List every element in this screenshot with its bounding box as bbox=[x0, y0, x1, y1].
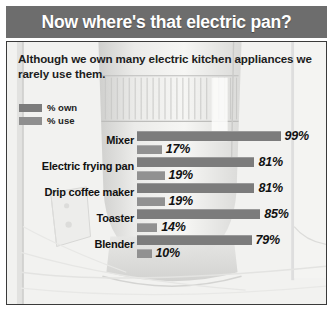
bar-line-own: 99% bbox=[137, 129, 309, 143]
title-bar: Now where's that electric pan? bbox=[6, 6, 327, 38]
bar-use bbox=[137, 197, 165, 206]
bar-group: 85%14% bbox=[137, 206, 327, 232]
bar-group: 99%17% bbox=[137, 128, 327, 154]
bar-use bbox=[137, 249, 152, 258]
bar-row-label: Electric frying pan bbox=[7, 160, 134, 172]
page-title: Now where's that electric pan? bbox=[41, 12, 291, 33]
bar-row-label: Blender bbox=[7, 238, 134, 250]
bar-own bbox=[137, 209, 260, 219]
bar-row: Electric frying pan81%19% bbox=[7, 154, 327, 180]
subtitle-text: Although we own many electric kitchen ap… bbox=[18, 51, 312, 82]
bar-chart-rows: Mixer99%17%Electric frying pan81%19%Drip… bbox=[7, 128, 327, 258]
bar-use bbox=[137, 145, 162, 154]
bar-group: 81%19% bbox=[137, 180, 327, 206]
bar-row: Drip coffee maker81%19% bbox=[7, 180, 327, 206]
bar-group: 79%10% bbox=[137, 232, 327, 258]
bar-own bbox=[137, 235, 252, 245]
bar-row: Toaster85%14% bbox=[7, 206, 327, 232]
bar-row-label: Drip coffee maker bbox=[7, 186, 134, 198]
bar-own bbox=[137, 131, 281, 141]
bar-use bbox=[137, 171, 165, 180]
chart-panel: Although we own many electric kitchen ap… bbox=[6, 41, 327, 305]
legend-swatch-own-icon bbox=[19, 104, 42, 112]
bar-value-own: 81% bbox=[258, 155, 282, 169]
legend-label-own: % own bbox=[47, 102, 77, 113]
bar-value-own: 85% bbox=[264, 207, 288, 221]
bar-row-label: Mixer bbox=[7, 134, 134, 146]
bar-use bbox=[137, 223, 157, 232]
bar-row-label: Toaster bbox=[7, 212, 134, 224]
bar-own bbox=[137, 183, 254, 193]
legend-label-use: % use bbox=[47, 115, 74, 126]
bar-group: 81%19% bbox=[137, 154, 327, 180]
bar-row: Blender79%10% bbox=[7, 232, 327, 258]
legend-item-own: % own bbox=[19, 102, 77, 113]
bar-line-use: 10% bbox=[137, 246, 180, 260]
infographic: Now where's that electric pan? bbox=[0, 0, 334, 317]
bar-own bbox=[137, 157, 254, 167]
bar-value-use: 10% bbox=[156, 246, 180, 260]
legend-swatch-use-icon bbox=[19, 117, 42, 125]
bar-row: Mixer99%17% bbox=[7, 128, 327, 154]
bar-line-own: 81% bbox=[137, 181, 283, 195]
bar-value-own: 99% bbox=[285, 129, 309, 143]
bar-value-own: 79% bbox=[256, 233, 280, 247]
bar-line-own: 81% bbox=[137, 155, 283, 169]
bar-line-own: 85% bbox=[137, 207, 289, 221]
legend: % own % use bbox=[19, 102, 77, 128]
legend-item-use: % use bbox=[19, 115, 77, 126]
bar-line-own: 79% bbox=[137, 233, 280, 247]
bar-value-own: 81% bbox=[258, 181, 282, 195]
